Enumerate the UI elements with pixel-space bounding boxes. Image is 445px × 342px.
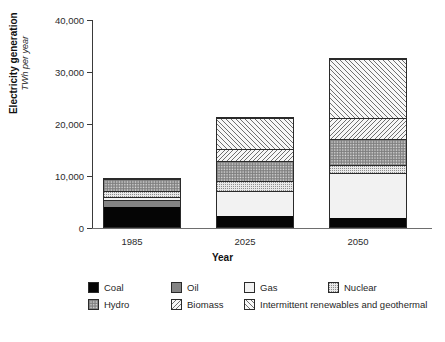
legend-row-1: Coal Oil Gas Nuclear — [88, 282, 438, 293]
hydro-swatch-icon — [88, 299, 99, 310]
legend-label-coal: Coal — [104, 282, 124, 293]
legend-label-intermittent-renewables: Intermittent renewables and geothermal — [260, 299, 427, 310]
plot-area — [92, 20, 430, 228]
stacked-bar-chart: Electricity generation TWh per year 010,… — [0, 0, 445, 342]
bar-segment-intermittent-2025[interactable] — [217, 118, 293, 149]
y-tick-label: 0 — [24, 223, 84, 234]
x-axis-label-2050: 2050 — [313, 236, 403, 247]
x-axis-label-2025: 2025 — [200, 236, 290, 247]
bar-segment-coal-1985[interactable] — [104, 207, 180, 227]
bar-segment-gas-2025[interactable] — [217, 191, 293, 216]
legend-item-nuclear: Nuclear — [328, 282, 377, 293]
bar-segment-nuclear-2050[interactable] — [330, 165, 406, 173]
legend-item-biomass: Biomass — [171, 299, 244, 310]
bar-1985[interactable] — [103, 178, 181, 228]
legend-item-oil: Oil — [171, 282, 244, 293]
legend-label-nuclear: Nuclear — [344, 282, 377, 293]
bar-2050[interactable] — [329, 58, 407, 228]
gas-swatch-icon — [244, 282, 255, 293]
oil-swatch-icon — [171, 282, 182, 293]
y-tick-label: 30,000 — [24, 67, 84, 78]
bar-segment-oil-1985[interactable] — [104, 200, 180, 207]
x-axis-label-1985: 1985 — [87, 236, 177, 247]
bar-segment-hydro-1985[interactable] — [104, 179, 180, 191]
legend-item-coal: Coal — [88, 282, 171, 293]
legend-label-oil: Oil — [187, 282, 199, 293]
chart-legend: Coal Oil Gas Nuclear Hydro Biomass — [88, 282, 438, 316]
bar-segment-coal-2050[interactable] — [330, 218, 406, 227]
bar-segment-coal-2025[interactable] — [217, 216, 293, 227]
bar-segment-gas-2050[interactable] — [330, 173, 406, 218]
legend-label-hydro: Hydro — [104, 299, 129, 310]
coal-swatch-icon — [88, 282, 99, 293]
y-tick-label: 10,000 — [24, 171, 84, 182]
y-tick-mark — [87, 228, 92, 229]
bar-2025[interactable] — [216, 117, 294, 228]
legend-item-gas: Gas — [244, 282, 328, 293]
x-axis-title: Year — [0, 252, 445, 263]
legend-row-2: Hydro Biomass Intermittent renewables an… — [88, 299, 438, 310]
bar-segment-biomass-2050[interactable] — [330, 118, 406, 139]
bar-segment-nuclear-2025[interactable] — [217, 181, 293, 191]
bar-segment-hydro-2025[interactable] — [217, 161, 293, 181]
bar-segment-biomass-2025[interactable] — [217, 149, 293, 161]
biomass-swatch-icon — [171, 299, 182, 310]
legend-label-gas: Gas — [260, 282, 277, 293]
legend-item-hydro: Hydro — [88, 299, 171, 310]
nuclear-swatch-icon — [328, 282, 339, 293]
bar-segment-intermittent-2050[interactable] — [330, 59, 406, 118]
y-tick-label: 40,000 — [24, 15, 84, 26]
y-tick-label: 20,000 — [24, 119, 84, 130]
intermittent-swatch-icon — [244, 299, 255, 310]
legend-label-biomass: Biomass — [187, 299, 223, 310]
bar-segment-hydro-2050[interactable] — [330, 139, 406, 165]
legend-item-intermittent-renewables: Intermittent renewables and geothermal — [244, 299, 427, 310]
